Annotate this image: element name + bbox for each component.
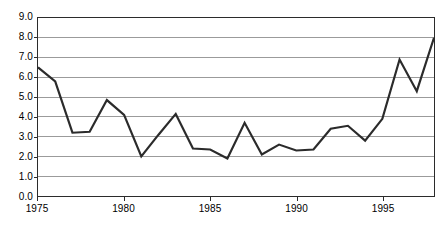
y-tick-mark [34, 97, 37, 98]
x-tick-label: 1990 [277, 204, 317, 214]
y-tick-mark [34, 137, 37, 138]
x-axis: 19751980198519901995 [0, 0, 448, 240]
x-tick-mark [124, 197, 125, 201]
y-tick-mark [34, 57, 37, 58]
x-tick-mark [383, 197, 384, 201]
x-tick-label: 1975 [17, 204, 57, 214]
x-tick-mark [37, 197, 38, 201]
line-chart: 0.01.02.03.04.05.06.07.08.09.0 197519801… [0, 0, 448, 240]
x-tick-mark [297, 197, 298, 201]
y-tick-mark [34, 37, 37, 38]
x-tick-label: 1985 [190, 204, 230, 214]
y-tick-mark [34, 117, 37, 118]
x-tick-mark [210, 197, 211, 201]
y-tick-mark [34, 157, 37, 158]
y-tick-mark [34, 77, 37, 78]
x-tick-label: 1995 [363, 204, 403, 214]
y-tick-mark [34, 177, 37, 178]
x-tick-label: 1980 [104, 204, 144, 214]
